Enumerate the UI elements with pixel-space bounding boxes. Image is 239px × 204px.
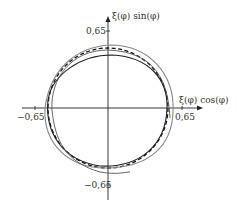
x-tick-label-neg: −0,65: [17, 113, 45, 122]
x-axis-arrow-icon: [197, 106, 203, 111]
y-tick-label-neg: −0,65: [84, 181, 112, 190]
x-tick-label-pos: 0,65: [175, 113, 195, 122]
y-axis-arrow-icon: [106, 16, 111, 22]
y-axis-label: ξ(φ) sin(φ): [112, 12, 160, 21]
y-tick-label-pos: 0,65: [86, 27, 106, 36]
x-axis-label: ξ(φ) cos(φ): [179, 96, 229, 105]
series-dark: [48, 55, 167, 166]
